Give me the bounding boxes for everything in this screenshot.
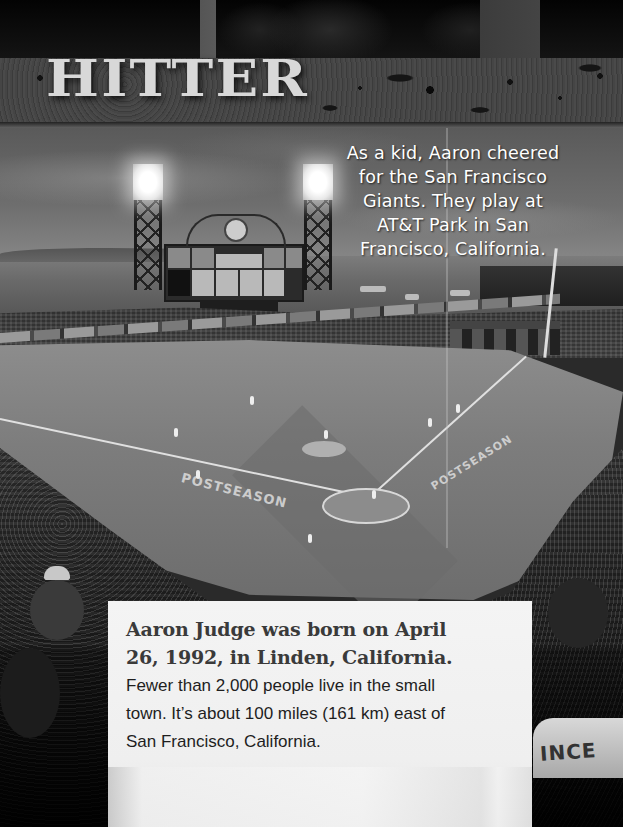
fan xyxy=(30,580,84,640)
caption-line: Giants. They play at xyxy=(330,189,576,213)
boat xyxy=(405,294,419,300)
ad-panel xyxy=(264,248,284,268)
light-tower-right xyxy=(304,200,332,290)
player xyxy=(174,428,178,437)
caption-line: AT&T Park in San xyxy=(330,213,576,237)
floodlight xyxy=(303,164,333,200)
player xyxy=(196,470,200,479)
lead-line: Aaron Judge was born on April xyxy=(126,615,532,643)
player xyxy=(372,490,376,499)
chapter-header-banner: HITTER xyxy=(0,0,623,128)
boat xyxy=(450,290,470,296)
video-board xyxy=(216,254,262,268)
player xyxy=(428,418,432,427)
clock-icon xyxy=(224,218,248,242)
photo-caption: As a kid, Aaron cheered for the San Fran… xyxy=(330,141,576,261)
body-line: Fewer than 2,000 people live in the smal… xyxy=(126,672,532,700)
home-plate-area xyxy=(322,488,410,524)
boat xyxy=(360,286,386,292)
player xyxy=(308,534,312,543)
caption-line: for the San Francisco xyxy=(330,165,576,189)
ad-panel xyxy=(192,248,214,268)
light-tower-left xyxy=(134,200,162,290)
lead-sentence: Aaron Judge was born on April 26, 1992, … xyxy=(126,615,532,671)
player xyxy=(250,396,254,405)
fan xyxy=(0,648,60,738)
score-panel xyxy=(264,270,284,296)
lead-line: 26, 1992, in Linden, California. xyxy=(126,643,532,671)
score-panel xyxy=(240,270,262,296)
ad-panel xyxy=(168,270,190,296)
body-line: town. It’s about 100 miles (161 km) east… xyxy=(126,700,532,728)
body-text-box: Aaron Judge was born on April 26, 1992, … xyxy=(108,601,532,827)
body-paragraph: Fewer than 2,000 people live in the smal… xyxy=(126,672,532,756)
fan-cap xyxy=(44,566,70,580)
player xyxy=(456,404,460,413)
chapter-title: HITTER xyxy=(46,54,309,104)
pitchers-mound xyxy=(302,441,346,457)
caption-line: Francisco, California. xyxy=(330,237,576,261)
score-panel xyxy=(192,270,214,296)
fan xyxy=(548,578,608,648)
scoreboard xyxy=(164,244,304,302)
ad-panel xyxy=(286,248,302,268)
ad-panel xyxy=(168,248,190,268)
jersey-lettering: INCE xyxy=(539,738,597,766)
body-line: San Francisco, California. xyxy=(126,728,532,756)
caption-line: As a kid, Aaron cheered xyxy=(330,141,576,165)
player xyxy=(324,430,328,439)
player-photo-screen xyxy=(216,270,238,296)
floodlight xyxy=(133,164,163,200)
